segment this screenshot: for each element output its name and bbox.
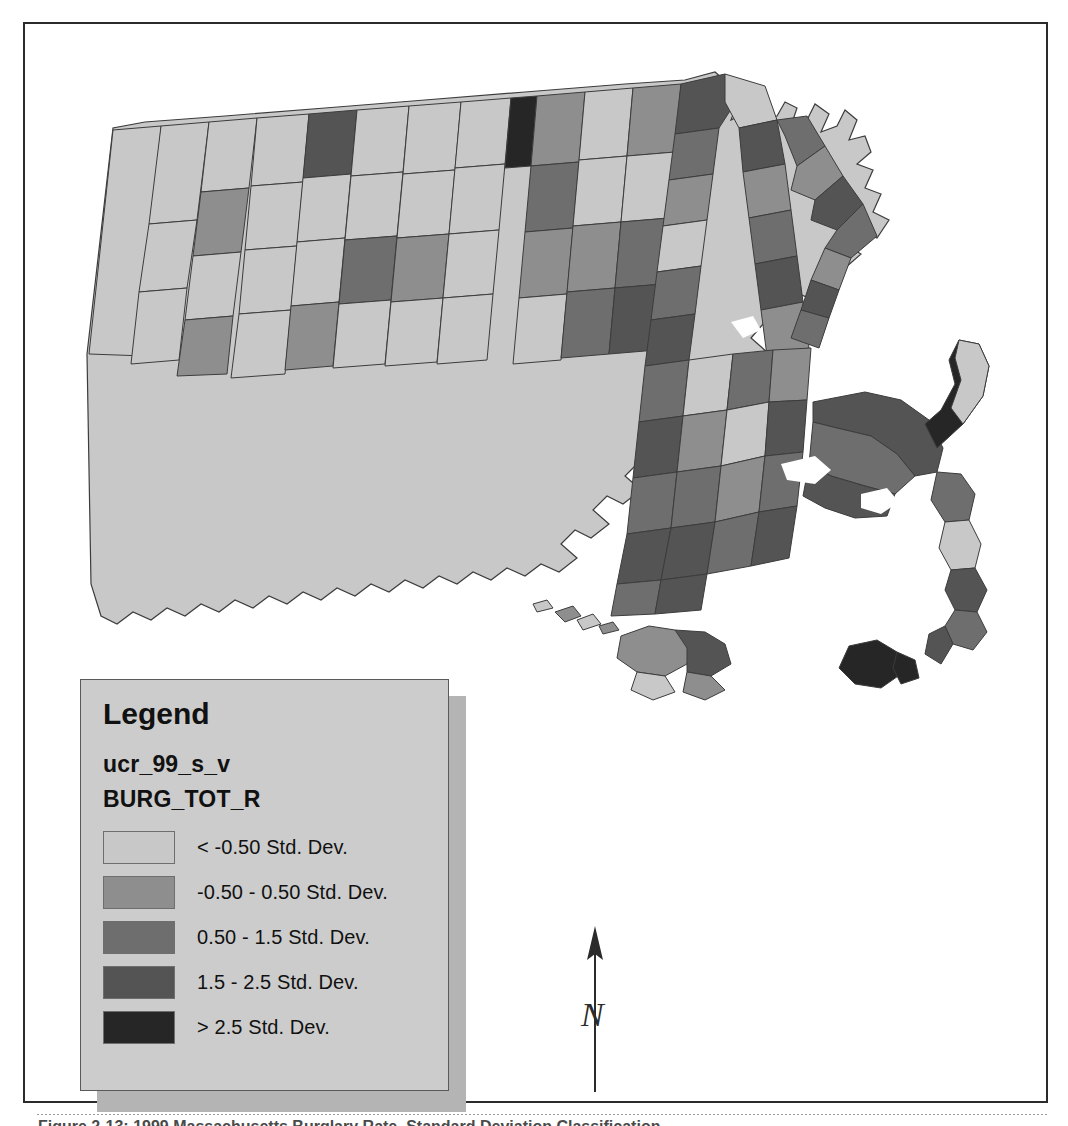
north-arrow: N <box>580 926 606 1092</box>
north-arrow-label: N <box>580 996 606 1033</box>
legend-label-class-5: > 2.5 Std. Dev. <box>197 1016 330 1039</box>
legend-class-list: < -0.50 Std. Dev. -0.50 - 0.50 Std. Dev.… <box>103 825 448 1050</box>
legend-swatch-class-5 <box>103 1011 175 1044</box>
legend-swatch-class-3 <box>103 921 175 954</box>
legend-row[interactable]: 1.5 - 2.5 Std. Dev. <box>103 960 448 1005</box>
islands <box>533 600 919 700</box>
towns-western <box>89 102 461 378</box>
legend-row[interactable]: -0.50 - 0.50 Std. Dev. <box>103 870 448 915</box>
legend-dataset-name: ucr_99_s_v <box>103 752 448 778</box>
figure-frame: N Legend ucr_99_s_v BURG_TOT_R < -0.50 S… <box>23 22 1048 1103</box>
legend-panel[interactable]: Legend ucr_99_s_v BURG_TOT_R < -0.50 Std… <box>80 679 449 1091</box>
legend-swatch-class-1 <box>103 831 175 864</box>
legend-label-class-4: 1.5 - 2.5 Std. Dev. <box>197 971 359 994</box>
legend-variable-name: BURG_TOT_R <box>103 787 448 813</box>
legend-title: Legend <box>103 698 448 730</box>
caption-divider <box>37 1114 1047 1115</box>
legend-swatch-class-4 <box>103 966 175 999</box>
legend-swatch-class-2 <box>103 876 175 909</box>
legend-row[interactable]: > 2.5 Std. Dev. <box>103 1005 448 1050</box>
towns-central <box>437 84 681 364</box>
legend-row[interactable]: 0.50 - 1.5 Std. Dev. <box>103 915 448 960</box>
legend-label-class-2: -0.50 - 0.50 Std. Dev. <box>197 881 388 904</box>
figure-caption: Figure 2-13: 1999 Massachusetts Burglary… <box>38 1117 1028 1126</box>
legend-label-class-3: 0.50 - 1.5 Std. Dev. <box>197 926 370 949</box>
legend-row[interactable]: < -0.50 Std. Dev. <box>103 825 448 870</box>
legend-label-class-1: < -0.50 Std. Dev. <box>197 836 348 859</box>
